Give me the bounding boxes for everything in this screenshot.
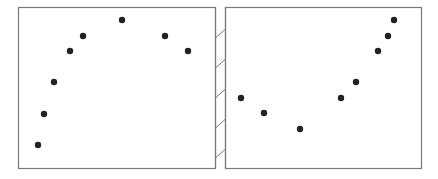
right-panel-frame <box>226 8 422 169</box>
left-panel-frame <box>19 8 216 169</box>
data-point <box>51 79 57 85</box>
data-point <box>353 79 359 85</box>
data-point <box>338 95 344 101</box>
data-point <box>238 95 244 101</box>
data-point <box>119 17 125 23</box>
data-point <box>162 33 168 39</box>
break-hatch-mark <box>216 59 226 68</box>
data-point <box>41 111 47 117</box>
data-point <box>385 33 391 39</box>
data-point <box>297 126 303 132</box>
break-hatch-mark <box>216 29 226 38</box>
data-point <box>261 110 267 116</box>
break-hatch-mark <box>216 89 226 98</box>
axis-break-strip <box>216 7 226 169</box>
right-panel <box>226 8 422 169</box>
break-hatch-mark <box>216 149 226 158</box>
data-point <box>375 48 381 54</box>
data-point <box>185 48 191 54</box>
left-panel <box>19 8 216 169</box>
data-point <box>391 17 397 23</box>
break-hatch-mark <box>216 119 226 128</box>
scatter-chart <box>0 0 438 179</box>
data-point <box>67 48 73 54</box>
data-point <box>80 33 86 39</box>
data-point <box>35 142 41 148</box>
